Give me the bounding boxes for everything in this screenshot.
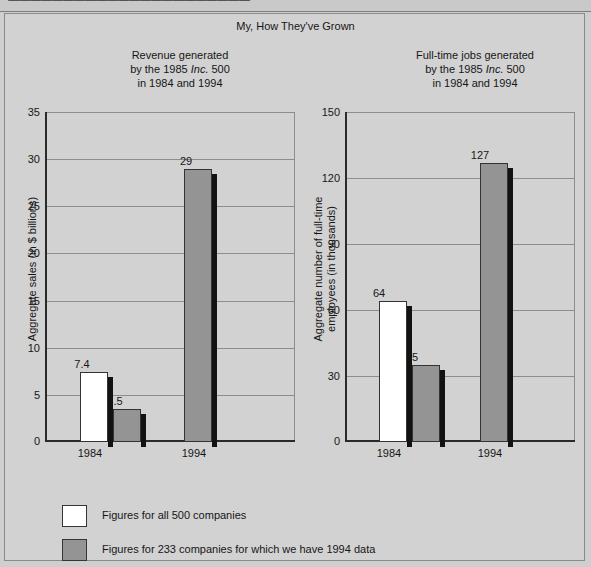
legend-label-all-500: Figures for all 500 companies <box>102 509 246 521</box>
ytick-jobs-120: 120 <box>300 172 340 184</box>
bar-value-jobs-1994-233: 127 <box>458 149 502 161</box>
legend-swatch-233-companies <box>62 539 87 561</box>
xtick-revenue-1994: 1994 <box>172 447 216 459</box>
chart-title-jobs-line2: by the 1985 Inc. 500 <box>360 62 590 76</box>
ytick-revenue-15: 15 <box>7 295 40 307</box>
bar-shadow-1984-233 <box>141 414 146 447</box>
bar-shadow-jobs-1984-233 <box>440 370 445 447</box>
y-axis-revenue <box>45 112 47 442</box>
y-axis-label-revenue-text: Aggregate sales (in $ billions) <box>26 197 38 341</box>
xtick-revenue-1984: 1984 <box>68 447 112 459</box>
gridline-jobs-120 <box>345 178 575 179</box>
chart-title-revenue-line2-post: 500 <box>208 63 229 75</box>
figure-panel: My, How They've Grown Revenue generated … <box>4 13 585 561</box>
gridline-jobs-90 <box>345 244 575 245</box>
chart-title-jobs-line1: Full-time jobs generated <box>360 48 590 62</box>
ytick-revenue-10: 10 <box>7 342 40 354</box>
bar-jobs-1994-233-companies <box>480 163 508 442</box>
chart-title-revenue-line1: Revenue generated <box>65 48 295 62</box>
legend-label-233-companies: Figures for 233 companies for which we h… <box>102 543 375 555</box>
ytick-revenue-30: 30 <box>7 153 40 165</box>
chart-title-jobs-line2-post: 500 <box>503 63 524 75</box>
chart-title-jobs: Full-time jobs generated by the 1985 Inc… <box>360 48 590 90</box>
gridline-15 <box>45 301 295 302</box>
bar-jobs-1984-all-500 <box>379 301 407 442</box>
chart-title-revenue-line2: by the 1985 Inc. 500 <box>65 62 295 76</box>
ytick-revenue-0: 0 <box>7 435 40 447</box>
gridline-20 <box>45 253 295 254</box>
chart-title-jobs-line3: in 1984 and 1994 <box>360 76 590 90</box>
ytick-revenue-25: 25 <box>7 200 40 212</box>
ytick-jobs-30: 30 <box>300 370 340 382</box>
gridline-25 <box>45 206 295 207</box>
ytick-jobs-60: 60 <box>300 304 340 316</box>
chart-title-revenue: Revenue generated by the 1985 Inc. 500 i… <box>65 48 295 90</box>
plot-area-jobs <box>345 112 575 442</box>
bar-value-jobs-1984-233: 35 <box>390 351 434 363</box>
legend-swatch-all-500 <box>62 505 87 527</box>
y-axis-label-revenue: Aggregate sales (in $ billions) <box>26 124 39 414</box>
chart-title-revenue-line3: in 1984 and 1994 <box>65 76 295 90</box>
ytick-revenue-35: 35 <box>7 106 40 118</box>
xtick-jobs-1984: 1984 <box>367 447 411 459</box>
chart-title-jobs-line2-em: Inc. <box>486 63 504 75</box>
figure-title: My, How They've Grown <box>5 20 586 32</box>
bar-shadow-jobs-1994-233 <box>508 168 513 447</box>
ytick-jobs-150: 150 <box>300 106 340 118</box>
gridline-10 <box>45 348 295 349</box>
xtick-jobs-1994: 1994 <box>468 447 512 459</box>
bar-value-1994-233-revenue: 29 <box>164 155 208 167</box>
chart-figure: —————————————————————— My, How They've G… <box>0 0 591 567</box>
ytick-revenue-5: 5 <box>7 389 40 401</box>
bar-1984-all-500 <box>80 372 108 442</box>
bar-value-1984-all-revenue: 7.4 <box>60 358 104 370</box>
y-axis-jobs <box>345 112 347 442</box>
clipped-header-text: —————————————————————— <box>8 0 250 5</box>
chart-title-revenue-line2-em: Inc. <box>191 63 209 75</box>
ytick-jobs-90: 90 <box>300 238 340 250</box>
bar-jobs-1984-233-companies <box>412 365 440 442</box>
bar-1994-233-companies <box>184 169 212 442</box>
bar-shadow-1994-233 <box>212 174 217 447</box>
ytick-revenue-20: 20 <box>7 247 40 259</box>
ytick-jobs-0: 0 <box>300 435 340 447</box>
chart-title-jobs-line2-pre: by the 1985 <box>425 63 486 75</box>
clipped-header-strip: —————————————————————— <box>0 0 591 12</box>
chart-title-revenue-line2-pre: by the 1985 <box>130 63 191 75</box>
bar-value-jobs-1984-all: 64 <box>357 287 401 299</box>
bar-value-1984-233-revenue: 3.5 <box>93 395 137 407</box>
bar-1984-233-companies <box>113 409 141 442</box>
